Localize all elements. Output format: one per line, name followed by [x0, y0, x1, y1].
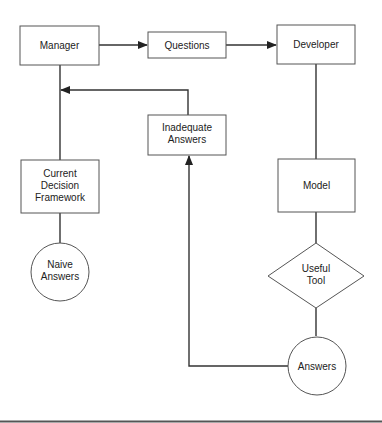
node-questions-label: Questions: [164, 40, 209, 51]
node-model-label: Model: [303, 180, 330, 191]
edge-answers-inadequate-answers: [189, 156, 288, 366]
label-line: Answers: [298, 361, 336, 372]
node-answers-label: Answers: [298, 361, 336, 372]
node-questions: Questions: [148, 32, 226, 58]
label-line: Questions: [164, 40, 209, 51]
label-line: Manager: [40, 40, 80, 51]
node-naive-answers: NaiveAnswers: [31, 243, 89, 301]
label-line: Inadequate: [162, 122, 212, 133]
node-answers: Answers: [288, 337, 346, 395]
node-useful-tool: UsefulTool: [268, 243, 364, 308]
edge-inadequate-answers-manager: [61, 90, 188, 115]
node-model: Model: [278, 159, 355, 212]
node-developer: Developer: [277, 25, 355, 64]
flow-diagram: Manager Questions Developer InadequateAn…: [0, 0, 382, 423]
node-inadequate-answers: InadequateAnswers: [148, 115, 226, 155]
node-inadequate-answers-label: InadequateAnswers: [162, 122, 212, 145]
label-line: Current: [43, 168, 77, 179]
node-developer-label: Developer: [293, 39, 339, 50]
node-manager-label: Manager: [40, 40, 80, 51]
label-line: Model: [303, 180, 330, 191]
node-manager: Manager: [20, 26, 99, 65]
node-current-decision-framework: CurrentDecisionFramework: [21, 160, 99, 213]
label-line: Useful: [302, 263, 330, 274]
label-line: Framework: [35, 192, 86, 203]
label-line: Tool: [307, 275, 325, 286]
label-line: Answers: [41, 271, 79, 282]
label-line: Naive: [47, 259, 73, 270]
label-line: Developer: [293, 39, 339, 50]
label-line: Answers: [168, 134, 206, 145]
label-line: Decision: [41, 180, 79, 191]
